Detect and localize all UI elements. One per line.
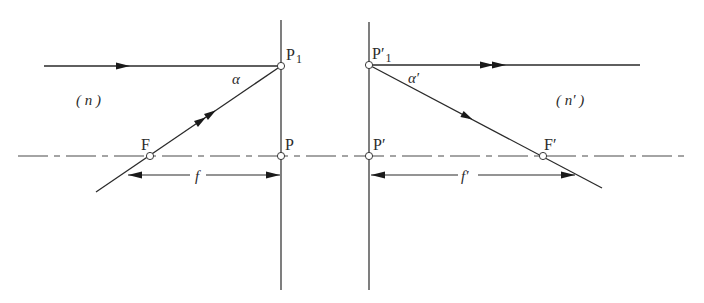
dim-arrow-left-icon-2 [371, 172, 385, 179]
label-fprime: f′ [461, 168, 469, 184]
incident-ray-arrow-icon [116, 63, 130, 70]
point-F [146, 152, 153, 159]
double-arrow-icon-3 [480, 62, 494, 69]
point-P [277, 152, 284, 159]
dim-arrow-right-icon [266, 172, 280, 179]
dim-arrow-left-icon [128, 172, 142, 179]
ray-through-focal-point [96, 66, 281, 192]
label-P1: P1 [286, 46, 302, 66]
label-F: F [141, 136, 150, 153]
label-medium-left: ( n ) [76, 92, 101, 109]
point-Pprime [365, 152, 372, 159]
double-arrow-icon-2 [204, 107, 218, 120]
point-P1 [277, 62, 284, 69]
label-alphaprime: α′ [408, 70, 420, 86]
label-P: P [285, 136, 294, 153]
diagram-canvas: f f′ P1 P′1 P P′ F F′ α α′ ( n ) ( n′ ) [0, 0, 704, 303]
optics-diagram: f f′ P1 P′1 P P′ F F′ α α′ ( n ) ( n′ ) [0, 0, 704, 303]
label-P1prime: P′1 [372, 45, 391, 65]
label-Pprime: P′ [373, 136, 385, 153]
point-Fprime [539, 152, 546, 159]
ray-arrow-icon [460, 111, 474, 123]
double-arrow-icon-4 [492, 62, 506, 69]
ray-to-image-focal-point [369, 65, 602, 188]
point-P1prime [365, 61, 372, 68]
label-alpha: α [232, 71, 241, 87]
label-medium-right: ( n′ ) [556, 92, 584, 109]
label-Fprime: F′ [544, 136, 556, 153]
